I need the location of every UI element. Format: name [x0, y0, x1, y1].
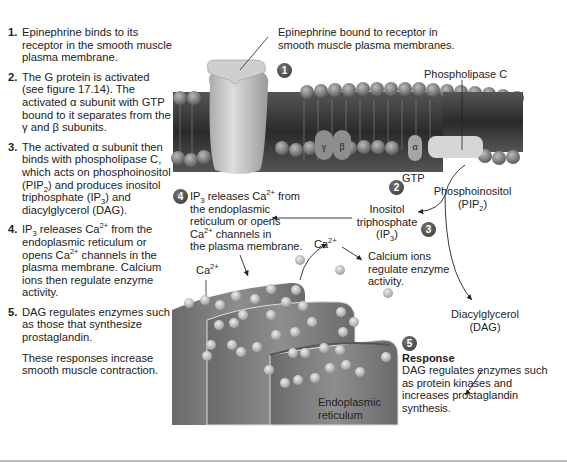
beta-label: β [339, 141, 344, 152]
calcium-ions-label: Calcium ions regulate enzyme activity. [368, 250, 468, 288]
alpha-label: α [412, 141, 418, 152]
badge-1: 1 [277, 63, 292, 78]
badge-2: 2 [389, 180, 404, 195]
response-title: Response [402, 352, 455, 365]
ca-left-label: Ca2+ [196, 264, 219, 277]
badge-5: 5 [402, 336, 417, 351]
badge-4: 4 [173, 189, 188, 204]
epinephrine-receptor [207, 60, 268, 174]
gtp-label: GTP [402, 172, 425, 185]
badge-3: 3 [421, 222, 436, 237]
dag-label: Diacylglycerol (DAG) [445, 308, 525, 333]
pip2-label: Phosphoinositol(PIP2) [430, 185, 515, 210]
bottom-divider [0, 460, 567, 462]
ca-mid-label: Ca2+ [314, 238, 337, 251]
receptor-label: Epinephrine bound to receptor in smooth … [278, 26, 458, 51]
phospholipase-c [428, 136, 483, 158]
gamma-label: γ [321, 141, 327, 152]
response-text: DAG regulates enzymes such as protein ki… [402, 364, 552, 414]
er-label: Endoplasmic reticulum [318, 396, 388, 421]
ip3-label: Inositoltriphosphate(IP3) [352, 203, 422, 241]
phospholipase-c-label: Phospholipase C [424, 68, 507, 81]
